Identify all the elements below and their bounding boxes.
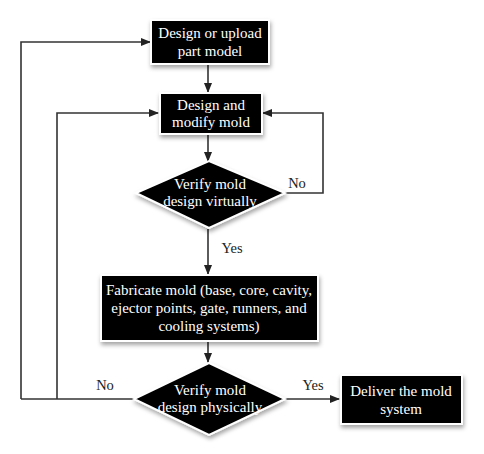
node-text: Verify mold bbox=[174, 176, 247, 192]
node-text: Design or upload bbox=[158, 25, 262, 41]
label-virtual-yes: Yes bbox=[221, 240, 242, 256]
decision-verify-virtually: Verify mold design virtually bbox=[136, 161, 285, 228]
node-text: Deliver the mold bbox=[350, 383, 452, 399]
node-text: system bbox=[380, 401, 422, 417]
node-text: modify mold bbox=[172, 114, 250, 130]
label-physical-no: No bbox=[96, 377, 114, 393]
node-text: Design and bbox=[177, 97, 245, 113]
node-text: ejector points, gate, runners, and bbox=[111, 300, 307, 316]
node-design-modify-mold: Design and modify mold bbox=[160, 93, 262, 134]
node-text: Fabricate mold (base, core, cavity, bbox=[106, 282, 312, 299]
node-text: design physically bbox=[158, 399, 263, 415]
label-physical-yes: Yes bbox=[302, 377, 323, 393]
node-text: cooling systems) bbox=[158, 318, 259, 335]
mold-design-flowchart: Design or upload part model Design and m… bbox=[0, 0, 484, 454]
decision-verify-physically: Verify mold design physically bbox=[134, 363, 285, 435]
node-text: part model bbox=[178, 43, 243, 59]
node-deliver-mold-system: Deliver the mold system bbox=[341, 375, 462, 424]
node-text: design virtually bbox=[163, 193, 257, 209]
node-design-upload-part: Design or upload part model bbox=[151, 20, 269, 64]
edge-physical-no-to-mold bbox=[57, 113, 158, 399]
node-text: Verify mold bbox=[174, 382, 247, 398]
label-virtual-no: No bbox=[288, 175, 306, 191]
edge-physical-no-to-part bbox=[21, 42, 150, 399]
node-fabricate-mold: Fabricate mold (base, core, cavity, ejec… bbox=[101, 275, 318, 341]
